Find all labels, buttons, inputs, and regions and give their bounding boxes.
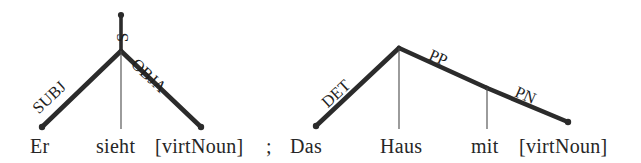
word-virtnoun-right: [virtNoun] <box>519 136 608 156</box>
word-haus: Haus <box>380 136 422 156</box>
root-dot-left <box>118 12 124 18</box>
tree-left-edges <box>39 12 204 130</box>
edge-subj-endpoint-dot <box>39 124 45 130</box>
tree-separator: ; <box>266 136 272 156</box>
edge-label-s: S <box>115 33 132 42</box>
edge-pn-endpoint-dot <box>565 119 571 125</box>
figure-canvas: S SUBJ OBJA DET PP PN Er sieht [virtNoun… <box>0 0 641 163</box>
word-er: Er <box>30 136 49 156</box>
edge-obja-endpoint-dot <box>198 124 204 130</box>
word-virtnoun-left: [virtNoun] <box>155 136 244 156</box>
word-sieht: sieht <box>96 136 135 156</box>
word-das: Das <box>290 136 322 156</box>
word-mit: mit <box>471 136 499 156</box>
edge-det-endpoint-dot <box>313 123 319 129</box>
